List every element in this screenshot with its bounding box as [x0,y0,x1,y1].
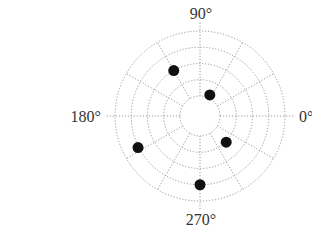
angle-label-180: 180° [71,108,101,125]
grid-spoke [210,42,243,98]
data-point-marker [168,65,179,76]
data-point-marker [221,137,232,148]
grid-spoke [158,133,191,189]
grid-ring [180,96,220,136]
data-point-marker [133,142,144,153]
angle-label-0: 0° [299,108,312,125]
data-point-marker [195,179,206,190]
polar-plot-area: 0°90°180°270° [0,0,312,235]
data-point-marker [204,89,215,100]
angle-label-90: 90° [190,5,212,22]
polar-chart: 0°90°180°270° [0,0,312,235]
angle-label-270: 270° [186,211,216,228]
